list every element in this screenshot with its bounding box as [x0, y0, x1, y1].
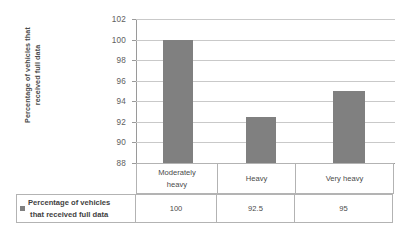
y-tick-label: 92 [116, 117, 126, 126]
y-tick-label: 100 [112, 35, 126, 44]
category-label-very-heavy: Very heavy [295, 163, 394, 194]
y-tick-label: 98 [116, 56, 126, 65]
legend-series-cell: Percentage of vehicles that received ful… [16, 194, 136, 223]
bar-very-heavy [333, 91, 365, 163]
y-axis-title: Percentage of vehicles that received ful… [16, 0, 50, 155]
category-label-moderately-heavy: Moderately heavy [136, 163, 218, 194]
y-axis-title-line-2: received full data [33, 27, 43, 123]
y-axis-title-line-1: Percentage of vehicles that [23, 27, 33, 123]
bar-chart: Percentage of vehicles that received ful… [0, 0, 400, 236]
plot-area [136, 19, 395, 163]
category-label-heavy: Heavy [217, 163, 296, 194]
value-cell-moderately-heavy: 100 [135, 194, 217, 223]
y-tick-label: 96 [116, 76, 126, 85]
legend-label-line-1: Percentage of vehicles [28, 198, 110, 207]
value-cell-very-heavy: 95 [294, 194, 393, 223]
y-tick-label: 102 [112, 15, 126, 24]
legend-label-line-2: that received full data [30, 210, 108, 219]
category-label-row: Moderately heavy Heavy Very heavy [16, 163, 395, 194]
bar-series [136, 19, 395, 163]
y-tick-label: 94 [116, 97, 126, 106]
legend-swatch-icon [20, 206, 25, 211]
category-label-line-2: heavy [158, 179, 196, 190]
category-row-spacer [16, 163, 136, 194]
y-axis-tick-labels: 88 90 92 94 96 98 100 102 [96, 19, 130, 163]
data-table-row: Percentage of vehicles that received ful… [16, 194, 395, 223]
bar-heavy [246, 117, 276, 163]
bar-moderately-heavy [163, 40, 193, 163]
category-label-line-1: Moderately [158, 167, 196, 178]
y-tick-label: 90 [116, 138, 126, 147]
value-cell-heavy: 92.5 [216, 194, 295, 223]
